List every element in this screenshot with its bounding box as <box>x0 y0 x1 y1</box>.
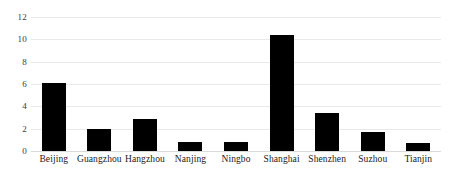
x-axis-label-shanghai: Shanghai <box>259 154 305 164</box>
x-axis-label-suzhou: Suzhou <box>350 154 396 164</box>
bar-slot-tianjin <box>396 17 442 151</box>
bar-slot-guangzhou <box>77 17 123 151</box>
bar-chart: 12 10 8 6 4 2 0 Beijing Guangzhou Hangzh… <box>0 0 449 178</box>
y-axis-tick-label-0: 0 <box>3 147 27 156</box>
y-axis-tick-label-6: 6 <box>3 80 27 89</box>
x-axis-label-hangzhou: Hangzhou <box>122 154 168 164</box>
y-axis-tick-label-4: 4 <box>3 102 27 111</box>
bar-tianjin[interactable] <box>406 143 430 151</box>
bar-shenzhen[interactable] <box>315 113 339 151</box>
x-axis-label-shenzhen: Shenzhen <box>304 154 350 164</box>
bar-slot-hangzhou <box>122 17 168 151</box>
x-axis-label-nanjing: Nanjing <box>168 154 214 164</box>
x-axis-label-guangzhou: Guangzhou <box>77 154 123 164</box>
x-axis-label-ningbo: Ningbo <box>213 154 259 164</box>
x-axis-label-tianjin: Tianjin <box>396 154 442 164</box>
x-axis-labels: Beijing Guangzhou Hangzhou Nanjing Ningb… <box>31 154 441 164</box>
bar-hangzhou[interactable] <box>133 119 157 151</box>
bar-guangzhou[interactable] <box>87 129 111 151</box>
bar-slot-nanjing <box>168 17 214 151</box>
bar-shanghai[interactable] <box>270 35 294 151</box>
bar-slot-beijing <box>31 17 77 151</box>
bar-slot-shanghai <box>259 17 305 151</box>
gridline-0-baseline <box>31 151 441 152</box>
y-axis-tick-label-10: 10 <box>3 35 27 44</box>
x-axis-label-beijing: Beijing <box>31 154 77 164</box>
bar-ningbo[interactable] <box>224 142 248 151</box>
bar-slot-shenzhen <box>304 17 350 151</box>
bar-slot-ningbo <box>213 17 259 151</box>
bar-slot-suzhou <box>350 17 396 151</box>
y-axis-tick-label-2: 2 <box>3 125 27 134</box>
bar-suzhou[interactable] <box>361 132 385 151</box>
y-axis-tick-label-12: 12 <box>3 13 27 22</box>
bar-beijing[interactable] <box>42 83 66 151</box>
y-axis-tick-label-8: 8 <box>3 58 27 67</box>
bar-series <box>31 17 441 151</box>
bar-nanjing[interactable] <box>178 142 202 151</box>
